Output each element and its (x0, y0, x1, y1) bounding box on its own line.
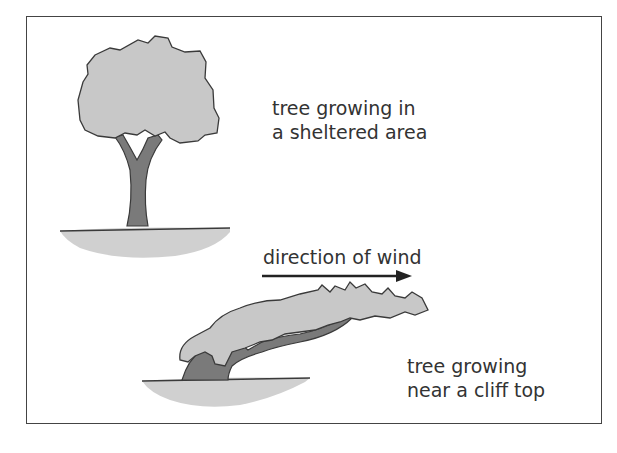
wind-arrow (262, 270, 412, 282)
sheltered-trunk (115, 135, 162, 226)
label-sheltered-tree: tree growing in a sheltered area (272, 96, 427, 144)
label-cliff-line2: near a cliff top (407, 378, 545, 402)
cliff-foliage (180, 282, 428, 366)
sheltered-foliage (78, 36, 219, 143)
sheltered-tree (60, 36, 230, 258)
label-wind-direction: direction of wind (263, 245, 422, 269)
sheltered-ground (60, 227, 230, 257)
label-cliff-line1: tree growing (407, 354, 545, 378)
cliff-tree (142, 282, 428, 407)
label-sheltered-line2: a sheltered area (272, 120, 427, 144)
label-cliff-tree: tree growing near a cliff top (407, 354, 545, 402)
cliff-ground (142, 377, 310, 406)
label-sheltered-line1: tree growing in (272, 96, 427, 120)
